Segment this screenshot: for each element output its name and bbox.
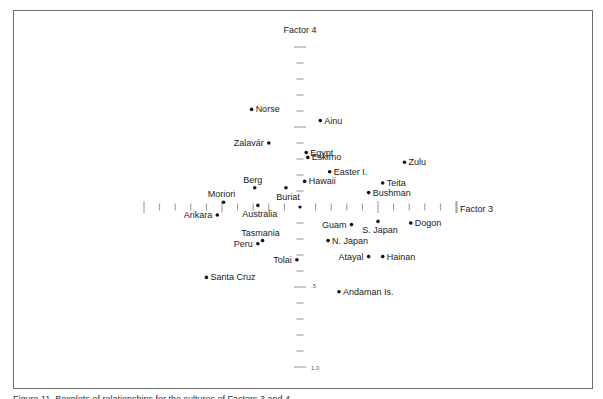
point-dot [250, 108, 254, 112]
point-dot [328, 170, 332, 174]
point-label: Andaman Is. [343, 287, 394, 297]
data-point: Guam [322, 220, 353, 230]
point-dot [326, 239, 330, 243]
point-label: Zulu [409, 157, 427, 167]
data-point: S. Japan [362, 220, 398, 236]
point-dot [256, 242, 260, 246]
data-point: Arikara [184, 210, 219, 220]
data-point: Hainan [381, 252, 415, 262]
point-label: Ainu [324, 116, 342, 126]
point-label: Atayal [339, 252, 364, 262]
data-point: Berg [243, 175, 262, 190]
data-point: Peru [234, 239, 260, 249]
point-dot [253, 186, 257, 190]
point-dot [367, 255, 371, 259]
point-label: Zalavár [234, 138, 264, 148]
point-dot [205, 276, 209, 280]
data-point: Eskimo [306, 152, 341, 162]
point-dot [284, 186, 288, 190]
point-dot [256, 204, 260, 208]
point-label: Guam [322, 220, 347, 230]
data-point: Teita [381, 178, 406, 188]
axes [144, 47, 457, 367]
figure-caption: Figure 11. Boxplots of relationships for… [13, 392, 290, 399]
data-point: Atayal [339, 252, 371, 262]
point-label: Hainan [387, 252, 416, 262]
point-dot [350, 223, 354, 227]
point-dot [376, 220, 380, 224]
point-dot [267, 141, 271, 145]
point-dot [303, 180, 307, 184]
point-dot [304, 151, 308, 155]
point-label: Arikara [184, 210, 213, 220]
data-points: NorseAinuZalavárEgyptEskimoZuluEaster I.… [184, 104, 441, 296]
point-dot [306, 156, 310, 160]
point-label: Santa Cruz [210, 272, 256, 282]
point-dot [318, 119, 322, 123]
point-label: Eskimo [312, 152, 342, 162]
y-tick-label-half: .5 [311, 283, 317, 289]
data-point: N. Japan [326, 236, 368, 246]
point-label: Berg [243, 175, 262, 185]
data-point: Zalavár [234, 138, 271, 148]
y-tick-label-one: 1.0 [311, 365, 320, 371]
data-point: Andaman Is. [337, 287, 393, 297]
data-point: Dogon [409, 218, 441, 228]
point-label: S. Japan [362, 225, 398, 235]
point-label: Tolai [273, 255, 292, 265]
point-dot [337, 290, 341, 294]
data-point: Easter I. [328, 167, 367, 177]
point-dot [261, 239, 265, 243]
data-point: Norse [250, 104, 280, 114]
data-point: Tolai [273, 255, 298, 265]
point-label: Hawaii [309, 176, 336, 186]
data-point: Ainu [318, 116, 342, 126]
point-dot [216, 213, 220, 217]
point-label: Australia [242, 209, 277, 219]
data-point: Santa Cruz [205, 272, 256, 282]
point-label: Norse [256, 104, 280, 114]
data-point: Bushman [367, 188, 411, 198]
point-label: Easter I. [334, 167, 368, 177]
point-dot [381, 181, 385, 185]
point-dot [381, 255, 385, 259]
data-point: Moriori [208, 189, 236, 204]
point-label: Bushman [373, 188, 411, 198]
point-label: Moriori [208, 189, 236, 199]
point-label: Teita [387, 178, 406, 188]
point-label: Buriat [276, 192, 300, 202]
point-dot [409, 221, 413, 225]
point-label: N. Japan [332, 236, 368, 246]
data-point: Hawaii [303, 176, 336, 186]
data-point: Zulu [403, 157, 426, 167]
point-dot [222, 200, 226, 204]
y-axis-title: Factor 4 [283, 25, 316, 35]
point-dot [367, 191, 371, 195]
point-label: Tasmania [241, 228, 280, 238]
point-label: Dogon [415, 218, 442, 228]
data-point: Australia [242, 204, 277, 220]
origin-marker [298, 205, 301, 208]
point-dot [403, 160, 407, 164]
scatter-plot: NorseAinuZalavárEgyptEskimoZuluEaster I.… [0, 0, 603, 399]
x-axis-title: Factor 3 [460, 204, 493, 214]
data-point: Buriat [276, 186, 300, 202]
point-dot [295, 258, 299, 262]
point-label: Peru [234, 239, 253, 249]
